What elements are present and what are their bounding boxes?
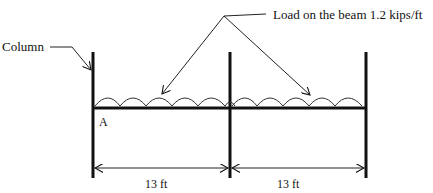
beam-diagram: Column Load on the beam 1.2 kips/ft A 13… [0, 0, 433, 193]
load-leader-arrow-1 [162, 16, 224, 94]
load-label: Load on the beam 1.2 kips/ft [273, 8, 422, 21]
diagram-graphics [0, 0, 433, 193]
load-leader-arrow-2 [224, 16, 310, 95]
support-a-label: A [99, 116, 108, 128]
column-label: Column [2, 40, 44, 53]
distributed-load-span-1 [95, 98, 235, 106]
column-leader-arrow [50, 47, 91, 70]
load-leader-line [224, 14, 266, 16]
span-1-label: 13 ft [145, 178, 167, 190]
distributed-load-span-2 [232, 98, 362, 106]
span-2-label: 13 ft [277, 178, 299, 190]
